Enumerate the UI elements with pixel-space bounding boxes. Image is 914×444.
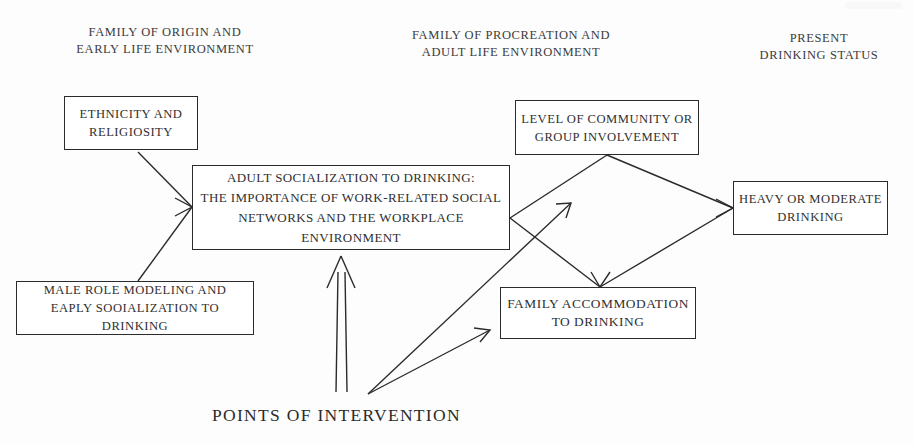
node-adult-socialization-label: ADULT SOCIALIZATION TO DRINKING: THE IMP… — [197, 168, 505, 248]
node-family-accommodation-label: FAMILY ACCOMMODATION TO DRINKING — [507, 295, 689, 331]
column-header-family-of-origin: FAMILY OF ORIGIN AND EARLY LIFE ENVIRONM… — [40, 24, 290, 58]
intervention-arrowhead-lower — [474, 328, 490, 342]
node-male-role-modeling[interactable]: MALE ROLE MODELING AND EAPLY SOOIALIZATI… — [16, 281, 254, 335]
intervention-arrow-lower-diagonal — [368, 330, 490, 394]
intervention-arrow-vertical-head-right — [341, 256, 355, 288]
node-ethnicity-label: ETHNICITY AND RELIGIOSITY — [80, 105, 183, 141]
node-ethnicity-and-religiosity[interactable]: ETHNICITY AND RELIGIOSITY — [64, 96, 198, 150]
edge-ethnicity-to-adult-socialization — [138, 152, 192, 207]
column-header-present-drinking-status: PRESENT DRINKING STATUS — [742, 30, 896, 64]
node-community-involvement-label: LEVEL OF COMMUNITY OR GROUP INVOLVEMENT — [521, 110, 693, 146]
intervention-arrow-vertical-shaft-left — [336, 272, 338, 392]
edge-adult-socialization-to-family-accommodation — [510, 218, 600, 287]
intervention-arrow-vertical-shaft-right — [345, 272, 347, 392]
node-family-accommodation[interactable]: FAMILY ACCOMMODATION TO DRINKING — [500, 287, 696, 339]
intervention-arrow-vertical-head-left — [327, 256, 341, 288]
points-of-intervention-caption: POINTS OF INTERVENTION — [212, 405, 461, 426]
node-male-role-modeling-label: MALE ROLE MODELING AND EAPLY SOOIALIZATI… — [21, 281, 249, 335]
edge-family-accommodation-to-heavy-drinking — [600, 208, 733, 287]
edge-community-to-heavy-drinking — [607, 155, 733, 208]
column-header-family-of-procreation: FAMILY OF PROCREATION AND ADULT LIFE ENV… — [378, 27, 644, 61]
arrowhead-into-adult-socialization — [175, 198, 192, 216]
diagram-canvas: FAMILY OF ORIGIN AND EARLY LIFE ENVIRONM… — [0, 0, 914, 444]
node-heavy-drinking-label: HEAVY OR MODERATE DRINKING — [739, 190, 882, 226]
arrowhead-family-accommodation-top — [591, 272, 610, 287]
edge-male-role-to-adult-socialization — [138, 207, 192, 281]
node-adult-socialization[interactable]: ADULT SOCIALIZATION TO DRINKING: THE IMP… — [192, 165, 510, 250]
node-heavy-or-moderate-drinking[interactable]: HEAVY OR MODERATE DRINKING — [733, 181, 888, 235]
edge-adult-socialization-to-community — [510, 155, 607, 218]
node-community-involvement[interactable]: LEVEL OF COMMUNITY OR GROUP INVOLVEMENT — [515, 100, 699, 155]
